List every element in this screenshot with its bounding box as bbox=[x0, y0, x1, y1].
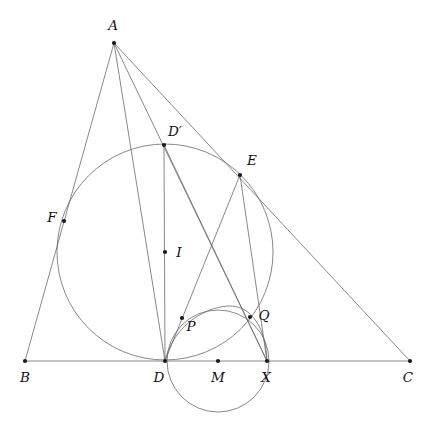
arcs-layer bbox=[165, 306, 267, 361]
label-X: X bbox=[260, 369, 272, 385]
point-B bbox=[23, 359, 27, 363]
arc-through-P-and-Q bbox=[165, 306, 267, 361]
segments-layer bbox=[25, 43, 410, 361]
geometry-figure: A B C D D′ E F I P Q M X bbox=[0, 0, 432, 430]
point-P bbox=[180, 316, 184, 320]
label-M: M bbox=[210, 369, 226, 385]
segment-AB bbox=[25, 43, 114, 361]
point-Q bbox=[248, 315, 252, 319]
point-A bbox=[112, 41, 116, 45]
point-M bbox=[216, 359, 220, 363]
label-B: B bbox=[19, 369, 30, 385]
label-Q: Q bbox=[258, 307, 269, 323]
point-C bbox=[408, 359, 412, 363]
labels-layer: A B C D D′ E F I P Q M X bbox=[19, 17, 414, 385]
label-F: F bbox=[46, 209, 57, 225]
label-E: E bbox=[246, 152, 257, 168]
label-I: I bbox=[175, 244, 182, 260]
point-D bbox=[163, 359, 167, 363]
point-E bbox=[238, 173, 242, 177]
point-D-prime bbox=[162, 143, 166, 147]
label-D: D bbox=[153, 369, 165, 385]
label-C: C bbox=[403, 369, 414, 385]
segment-E-to-D bbox=[165, 175, 240, 361]
point-F bbox=[62, 219, 66, 223]
geometry-canvas: A B C D D′ E F I P Q M X bbox=[0, 0, 432, 430]
label-A: A bbox=[106, 17, 118, 33]
label-D-prime: D′ bbox=[167, 123, 182, 139]
segment-A-to-D bbox=[114, 43, 165, 361]
label-P: P bbox=[185, 318, 196, 334]
point-X bbox=[265, 359, 269, 363]
points-layer bbox=[23, 41, 412, 363]
point-I bbox=[163, 250, 167, 254]
